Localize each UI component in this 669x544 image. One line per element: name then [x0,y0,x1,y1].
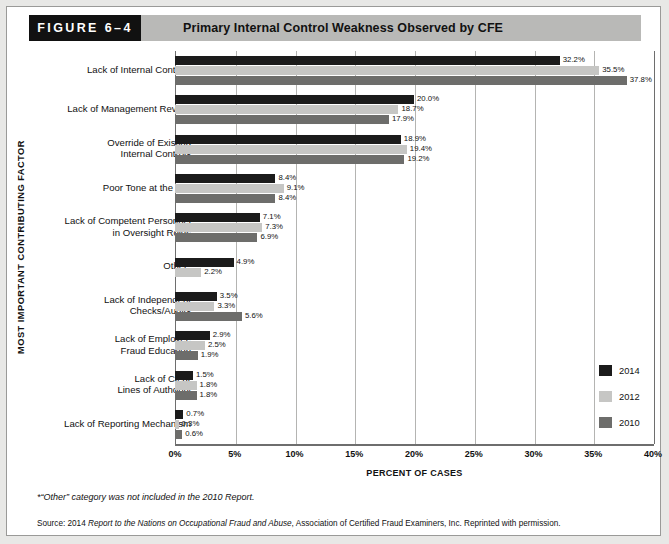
bar-value-label: 19.2% [404,154,429,163]
bar-fill-2012 [175,184,284,193]
legend-swatch [599,391,612,402]
x-tick-label: 10% [285,449,303,459]
category-label: Lack of ClearLines of Authority [0,373,191,396]
bar-value-label: 1.8% [197,380,218,389]
bar-value-label: 18.9% [401,134,426,143]
bar-fill-2010 [175,155,404,164]
bar-fill-2014 [175,213,260,222]
bar-fill-2014 [175,371,193,380]
legend-label: 2014 [619,366,640,376]
category-label: Lack of Competent Personnelin Oversight … [0,215,191,238]
bar-fill-2014 [175,135,401,144]
legend-label: 2010 [619,418,640,428]
legend-item: 2010 [599,416,640,429]
bar-fill-2014 [175,292,217,301]
bar-value-label: 0.3% [179,419,200,428]
bar-value-label: 1.5% [193,370,214,379]
figure-card: FIGURE 6–4 Primary Internal Control Weak… [6,6,661,536]
footnote: *“Other” category was not included in th… [37,492,637,502]
legend-item: 2012 [599,390,640,403]
bar-fill-2010 [175,391,197,400]
gridline [594,51,595,444]
figure-number-badge: FIGURE 6–4 [29,15,141,41]
category-label: Poor Tone at the Top [0,182,191,193]
bar-value-label: 0.7% [183,409,204,418]
source-italic-title: Report to the Nations on Occupational Fr… [88,519,292,528]
category-label: Lack of IndependentChecks/Audits [0,294,191,317]
bar-fill-2010 [175,312,242,321]
bar-value-label: 4.9% [234,257,255,266]
x-tick-label: 40% [644,449,662,459]
bar-value-label: 18.7% [398,104,423,113]
bar-fill-2010 [175,233,257,242]
x-tick-label: 30% [524,449,542,459]
bar-value-label: 5.6% [242,311,263,320]
legend-label: 2012 [619,392,640,402]
category-label: Lack of Internal Controls [0,64,191,75]
bar-fill-2014 [175,410,183,419]
source-prefix: Source: 2014 [37,519,88,528]
bar-value-label: 2.9% [210,330,231,339]
x-tick-label: 0% [168,449,181,459]
x-tick-label: 20% [405,449,423,459]
bar-value-label: 8.4% [275,193,296,202]
bar-fill-2010 [175,430,182,439]
bar-value-label: 8.4% [275,173,296,182]
figure-header: FIGURE 6–4 Primary Internal Control Weak… [29,15,641,41]
bar-fill-2012 [175,268,201,277]
chart-legend: 201420122010 [599,364,640,442]
category-label-line: Lack of Management Review [67,103,191,114]
bar-fill-2014 [175,174,275,183]
x-tick-label: 35% [584,449,602,459]
y-axis-title-text: MOST IMPORTANT CONTRIBUTING FACTOR [16,127,26,367]
bar-value-label: 6.9% [257,232,278,241]
legend-swatch [599,417,612,428]
x-tick-label: 25% [465,449,483,459]
bar-value-label: 17.9% [389,114,414,123]
bar-fill-2010 [175,194,275,203]
bar-value-label: 7.3% [262,222,283,231]
bar-fill-2010 [175,351,198,360]
bar-fill-2012 [175,105,398,114]
bar-value-label: 20.0% [414,94,439,103]
bar-fill-2014 [175,95,414,104]
bar-fill-2014 [175,258,234,267]
gridline [535,51,536,444]
legend-item: 2014 [599,364,640,377]
category-label-line: Lack of Reporting Mechanism [64,418,191,429]
source-suffix: , Association of Certified Fraud Examine… [292,519,561,528]
bar-value-label: 3.5% [217,291,238,300]
bar-value-label: 2.5% [205,340,226,349]
x-axis-line [175,444,654,446]
bar-value-label: 2.2% [201,267,222,276]
bar-fill-2014 [175,56,560,65]
bar-fill-2012 [175,381,197,390]
bar-fill-2010 [175,115,389,124]
bar-fill-2014 [175,331,210,340]
figure-title: Primary Internal Control Weakness Observ… [141,15,641,41]
bar-fill-2012 [175,223,262,232]
gridline [475,51,476,444]
bar-value-label: 37.8% [627,75,652,84]
category-label: Lack of Reporting Mechanism [0,418,191,429]
category-label: Lack of EmployeeFraud Education [0,333,191,356]
bar-fill-2012 [175,66,599,75]
bar-fill-2012 [175,145,407,154]
category-label: Lack of Management Review [0,103,191,114]
bar-fill-2012 [175,302,214,311]
bar-value-label: 3.3% [214,301,235,310]
category-label-line: Lack of Competent Personnel [65,215,191,226]
bar-value-label: 9.1% [284,183,305,192]
x-tick-label: 5% [228,449,241,459]
bar-value-label: 35.5% [599,65,624,74]
bar-value-label: 1.8% [197,390,218,399]
bar-value-label: 1.9% [198,350,219,359]
bar-fill-2012 [175,341,205,350]
bar-value-label: 7.1% [260,212,281,221]
legend-swatch [599,365,612,376]
category-label: Override of ExistingInternal Controls [0,137,191,160]
bar-fill-2010 [175,76,627,85]
x-axis-title: PERCENT OF CASES [175,468,654,478]
source-note: Source: 2014 Report to the Nations on Oc… [37,519,647,528]
category-label: Other* [0,260,191,271]
